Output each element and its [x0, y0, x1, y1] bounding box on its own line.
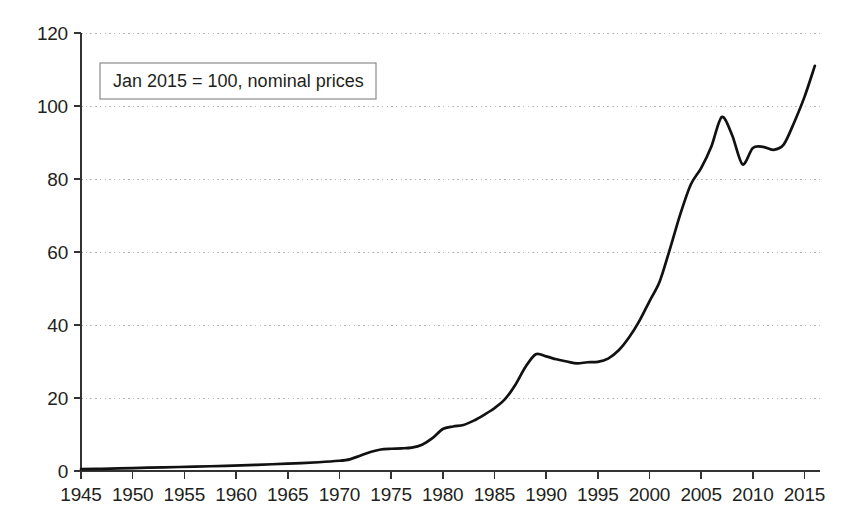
x-tick-label-1965: 1965 — [267, 484, 308, 505]
x-tick-label-2015: 2015 — [784, 484, 825, 505]
chart-container: 020406080100120 194519501955196019651970… — [0, 0, 867, 527]
y-tick-label-120: 120 — [37, 23, 68, 44]
x-tick-label-1980: 1980 — [422, 484, 463, 505]
y-tick-label-60: 60 — [47, 242, 68, 263]
x-tick-label-2010: 2010 — [732, 484, 773, 505]
x-tick-label-1960: 1960 — [215, 484, 256, 505]
x-tick-label-2000: 2000 — [629, 484, 670, 505]
annotation-label: Jan 2015 = 100, nominal prices — [113, 71, 364, 91]
y-tick-label-0: 0 — [58, 461, 68, 482]
annotation-box: Jan 2015 = 100, nominal prices — [100, 63, 376, 99]
x-tick-label-1985: 1985 — [474, 484, 515, 505]
line-chart: 020406080100120 194519501955196019651970… — [0, 0, 867, 527]
x-tick-label-1970: 1970 — [319, 484, 360, 505]
x-tick-label-1955: 1955 — [164, 484, 205, 505]
y-tick-label-40: 40 — [47, 315, 68, 336]
y-tick-label-20: 20 — [47, 388, 68, 409]
x-tick-label-2005: 2005 — [680, 484, 721, 505]
x-tick-label-1950: 1950 — [112, 484, 153, 505]
y-tick-label-80: 80 — [47, 169, 68, 190]
x-tick-label-1990: 1990 — [525, 484, 566, 505]
x-tick-label-1945: 1945 — [60, 484, 101, 505]
x-tick-label-1995: 1995 — [577, 484, 618, 505]
y-tick-label-100: 100 — [37, 96, 68, 117]
x-tick-label-1975: 1975 — [370, 484, 411, 505]
